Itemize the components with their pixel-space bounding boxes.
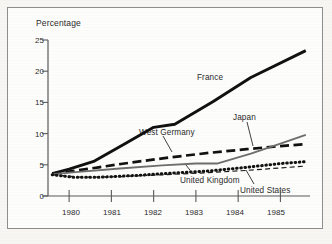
chart-plot-area bbox=[0, 0, 332, 244]
series-lines bbox=[52, 51, 306, 178]
figure-canvas: Percentage 25 20 15 10 5 0 1980 1981 198… bbox=[0, 0, 332, 244]
